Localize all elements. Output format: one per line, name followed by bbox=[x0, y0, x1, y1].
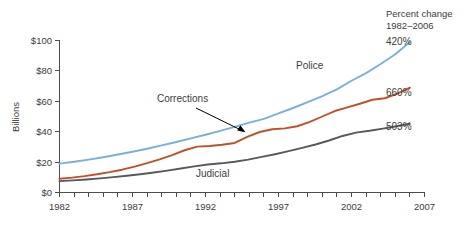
y-tick-label: $60 bbox=[36, 96, 52, 107]
series-line-police bbox=[60, 42, 410, 164]
series-label-judicial: Judicial bbox=[196, 168, 229, 179]
x-axis-ticks bbox=[60, 193, 425, 198]
y-tick-label: $80 bbox=[36, 65, 52, 76]
series-label-police: Police bbox=[296, 60, 324, 71]
corrections-callout-arrow bbox=[196, 108, 246, 132]
percent-change-judicial: 503% bbox=[386, 121, 412, 132]
y-axis-tick-labels: $0 $20 $40 $60 $80 $100 bbox=[31, 35, 52, 198]
x-tick-label: 1992 bbox=[195, 201, 216, 212]
y-tick-label: $0 bbox=[41, 187, 52, 198]
x-tick-label: 2007 bbox=[414, 201, 435, 212]
percent-change-corrections: 660% bbox=[386, 87, 412, 98]
y-axis-ticks bbox=[55, 41, 60, 193]
x-tick-label: 2002 bbox=[341, 201, 362, 212]
percent-change-title-line1: Percent change bbox=[386, 8, 453, 19]
y-tick-label: $20 bbox=[36, 157, 52, 168]
line-chart: $0 $20 $40 $60 $80 $100 Billions bbox=[0, 0, 466, 228]
x-tick-label: 1987 bbox=[122, 201, 143, 212]
x-tick-label: 1982 bbox=[49, 201, 70, 212]
series-label-corrections: Corrections bbox=[157, 93, 208, 104]
y-axis-title: Billions bbox=[10, 102, 21, 132]
y-tick-label: $40 bbox=[36, 126, 52, 137]
x-axis-tick-labels: 1982 1987 1992 1997 2002 2007 bbox=[49, 201, 435, 212]
percent-change-title-line2: 1982–2006 bbox=[386, 20, 434, 31]
x-tick-label: 1997 bbox=[268, 201, 289, 212]
percent-change-police: 420% bbox=[386, 36, 412, 47]
y-tick-label: $100 bbox=[31, 35, 52, 46]
chart-figure: $0 $20 $40 $60 $80 $100 Billions bbox=[0, 0, 466, 228]
